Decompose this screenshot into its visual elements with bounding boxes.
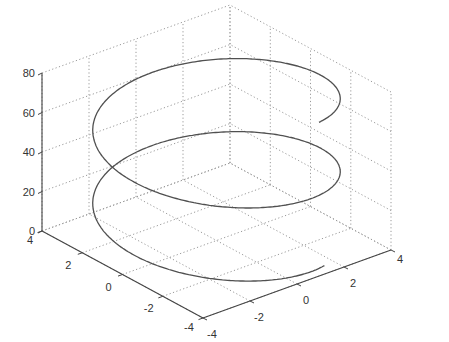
floor-grid-line (183, 180, 344, 267)
back-wall-grid-line (230, 45, 391, 132)
right-tick-label: -2 (254, 311, 264, 323)
right-tick (250, 301, 254, 303)
axes (38, 73, 396, 320)
z-tick-label: 20 (23, 186, 35, 198)
helix-curve (93, 59, 341, 282)
right-tick (297, 284, 301, 286)
floor-grid-line (123, 207, 311, 275)
tick-labels: 020406080420-2-4-4-2024 (23, 67, 403, 340)
left-tick (78, 253, 83, 255)
back-wall-grid-line (230, 124, 391, 211)
back-wall-grid-line (230, 84, 391, 171)
z-tick-label: 80 (23, 67, 35, 79)
back-wall-grid-line (230, 5, 391, 92)
z-tick (38, 152, 42, 154)
right-tick (203, 318, 207, 320)
z-tick-label: 40 (23, 146, 35, 158)
right-tick-label: -4 (207, 328, 217, 340)
right-tick (391, 250, 395, 252)
right-tick (344, 267, 348, 269)
left-tick-label: 2 (65, 259, 71, 271)
floor-grid-line (89, 214, 250, 301)
grid-lines (42, 5, 391, 318)
z-tick-label: 60 (23, 107, 35, 119)
right-tick-label: 4 (397, 253, 403, 265)
helix-line (93, 59, 341, 282)
left-tick-label: -2 (144, 302, 154, 314)
floor-grid-line (163, 228, 351, 296)
left-tick (118, 275, 123, 277)
floor-grid-line (136, 197, 297, 284)
z-tick (38, 73, 42, 75)
left-tick-label: 0 (105, 281, 111, 293)
helix-3d-plot: 020406080420-2-4-4-2024 (0, 0, 449, 342)
left-tick-label: -4 (184, 321, 194, 333)
z-tick (38, 113, 42, 115)
left-tick-label: 4 (27, 234, 33, 246)
right-tick-label: 0 (303, 294, 309, 306)
right-tick-label: 2 (350, 277, 356, 289)
z-tick (38, 192, 42, 194)
left-tick (199, 318, 204, 320)
left-tick (158, 296, 163, 298)
